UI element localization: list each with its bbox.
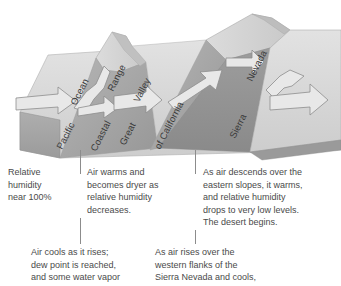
divider-upper-right	[195, 150, 196, 174]
divider-upper-left	[80, 150, 81, 174]
caption-air-warms: Air warms and becomes dryer as relative …	[87, 166, 191, 216]
caption-relative-humidity: Relative humidity near 100%	[8, 166, 74, 204]
rain-shadow-block-diagram	[0, 0, 341, 165]
caption-descends-east: As air descends over the eastern slopes,…	[203, 166, 339, 229]
caption-air-cools: Air cools as it rises; dew point is reac…	[31, 246, 147, 284]
divider-lower-right	[195, 230, 196, 244]
caption-rises-west: As air rises over the western flanks of …	[155, 246, 285, 284]
figure-container: Pacific Ocean Coastal Range Great Valley…	[0, 0, 341, 286]
base-plate-left-edge	[20, 112, 60, 158]
divider-lower-left	[80, 218, 81, 244]
